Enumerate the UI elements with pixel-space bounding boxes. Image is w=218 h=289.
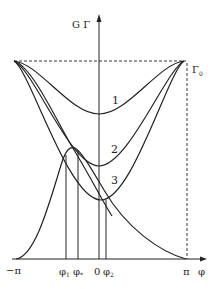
gamma0-label-main: Γ — [192, 64, 199, 75]
curve-label-3: 3 — [111, 174, 118, 187]
tick-minus-pi: −π — [6, 265, 21, 276]
tick-phi2-sub: 2 — [110, 271, 114, 278]
y-axis-arrow-icon — [97, 14, 102, 22]
diagram-canvas: 1 2 3 G Γ Γ0 −π φ1 φ* 0 φ2 π φ — [0, 0, 218, 289]
curve-label-1: 1 — [112, 94, 119, 107]
tick-phi1: φ1 — [59, 266, 70, 278]
x-axis-arrow-icon — [200, 257, 207, 262]
tick-pi: π — [183, 266, 190, 277]
tick-zero: 0 — [94, 266, 100, 277]
tick-phi2-main: φ — [103, 266, 110, 277]
x-axis-label: φ — [198, 266, 205, 277]
tick-phi2: φ2 — [103, 266, 114, 278]
tick-phi1-sub: 1 — [66, 271, 70, 278]
tick-phistar-sub: * — [80, 271, 83, 278]
curve-label-2: 2 — [111, 143, 118, 156]
gamma0-label-sub: 0 — [199, 70, 203, 77]
tick-phi1-main: φ — [59, 266, 66, 277]
tick-phistar: φ* — [73, 266, 83, 278]
peak-curve — [16, 148, 186, 259]
y-axis-label: G Γ — [72, 19, 90, 30]
gamma0-label: Γ0 — [192, 64, 203, 77]
tick-phistar-main: φ — [73, 266, 80, 277]
